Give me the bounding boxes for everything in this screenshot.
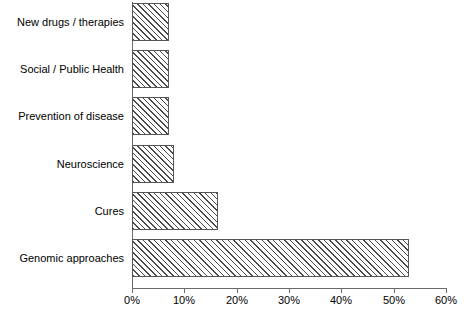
- x-axis-tick-label: 0%: [112, 294, 152, 306]
- x-axis-tick: [289, 288, 290, 293]
- x-axis-tick: [394, 288, 395, 293]
- bar-chart: New drugs / therapiesSocial / Public Hea…: [0, 0, 470, 314]
- x-axis-tick: [132, 288, 133, 293]
- x-axis-tick-label: 20%: [217, 294, 257, 306]
- x-axis-tick-label: 30%: [269, 294, 309, 306]
- x-axis-tick-label: 50%: [374, 294, 414, 306]
- bar: [132, 97, 169, 135]
- bar: [132, 145, 174, 183]
- x-axis-tick-label: 40%: [321, 294, 361, 306]
- x-axis-tick: [184, 288, 185, 293]
- bar: [132, 192, 218, 230]
- x-axis-tick-label: 60%: [426, 294, 466, 306]
- bar: [132, 239, 409, 277]
- plot-area: 0%10%20%30%40%50%60%: [0, 0, 470, 314]
- x-axis-tick: [237, 288, 238, 293]
- bar: [132, 50, 169, 88]
- x-axis-tick-label: 10%: [164, 294, 204, 306]
- x-axis-tick: [341, 288, 342, 293]
- bar: [132, 3, 169, 41]
- x-axis-tick: [446, 288, 447, 293]
